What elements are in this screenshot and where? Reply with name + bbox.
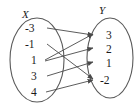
mapping-diagram-canvas: X Y -3 -1 1 3 4 3 2 1 -2	[0, 0, 137, 106]
range-element-0: 3	[106, 29, 112, 41]
mapping-arrow-1-to-3	[45, 34, 93, 60]
domain-element-1: -1	[25, 38, 35, 50]
range-element-2: 1	[106, 57, 112, 69]
set-x-label: X	[21, 8, 30, 20]
mapping-arrow-1-to-2	[45, 48, 93, 61]
domain-element-2: 1	[31, 54, 37, 66]
mapping-diagram: X Y -3 -1 1 3 4 3 2 1 -2	[0, 0, 137, 106]
range-element-1: 2	[106, 43, 112, 55]
domain-element-3: 3	[31, 70, 37, 82]
domain-element-4: 4	[31, 86, 37, 98]
mapping-arrow-neg3-to-3	[47, 28, 93, 35]
set-y-label: Y	[99, 4, 107, 16]
range-element-3: -2	[100, 74, 110, 86]
domain-element-0: -3	[25, 22, 35, 34]
mapping-arrow-4-to-neg2	[46, 80, 93, 92]
